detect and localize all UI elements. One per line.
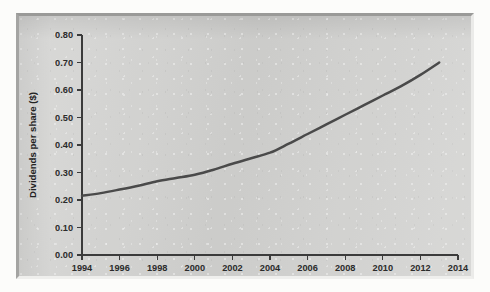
- y-tick-label: 0.60: [55, 85, 73, 95]
- figure-root: 0.000.100.200.300.400.500.600.700.80 Div…: [0, 0, 490, 292]
- data-area: [82, 63, 439, 196]
- y-axis-title: Dividends per share ($): [27, 92, 38, 198]
- x-tick-label: 2002: [222, 263, 242, 273]
- y-tick-label: 0.40: [55, 140, 73, 150]
- x-tick-label: 1998: [147, 263, 167, 273]
- y-tick-label: 0.80: [55, 30, 73, 40]
- line-chart: 0.000.100.200.300.400.500.600.700.80 Div…: [19, 16, 474, 279]
- x-tick-label: 2010: [373, 263, 393, 273]
- y-tick-label: 0.30: [55, 168, 73, 178]
- x-tick-label: 2008: [335, 263, 355, 273]
- x-tick-label: 2006: [297, 263, 317, 273]
- y-tick-label: 0.50: [55, 113, 73, 123]
- x-axis-ticks: 1994199619982000200220042006200820102012…: [72, 255, 469, 273]
- x-tick-label: 1994: [72, 263, 93, 273]
- x-tick-label: 2004: [260, 263, 281, 273]
- x-tick-label: 1996: [109, 263, 129, 273]
- y-tick-label: 0.10: [55, 223, 73, 233]
- y-axis-group: 0.000.100.200.300.400.500.600.700.80 Div…: [27, 30, 82, 260]
- y-tick-label: 0.00: [55, 250, 73, 260]
- y-tick-label: 0.70: [55, 58, 73, 68]
- x-axis-group: 1994199619982000200220042006200820102012…: [72, 255, 469, 273]
- x-tick-label: 2012: [410, 263, 430, 273]
- y-axis-ticks: 0.000.100.200.300.400.500.600.700.80: [55, 30, 82, 260]
- x-tick-label: 2014: [448, 263, 469, 273]
- x-tick-label: 2000: [185, 263, 205, 273]
- chart-panel: 0.000.100.200.300.400.500.600.700.80 Div…: [16, 13, 474, 279]
- y-tick-label: 0.20: [55, 195, 73, 205]
- data-line-dividends-per-share: [82, 63, 439, 196]
